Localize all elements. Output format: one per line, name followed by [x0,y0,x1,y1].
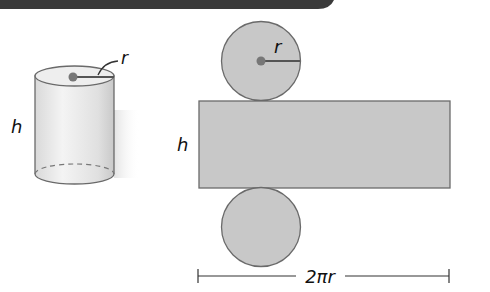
cylinder-center-dot [69,73,78,82]
cylinder-radius-label: r [121,48,129,68]
cylinder-net-diagram: r h r h 2πr [0,0,490,292]
cylinder-height-label: h [11,116,22,137]
cylinder-shadow [114,110,140,178]
net-bottom-circle [222,188,301,267]
header-bar [0,0,334,9]
net-center-dot [257,57,266,66]
cylinder-3d: r h [11,48,140,184]
net-rectangle [199,101,450,188]
cylinder-body [35,76,114,184]
cylinder-net: r h 2πr [177,22,450,288]
circumference-label: 2πr [305,266,336,287]
net-height-label: h [177,134,188,155]
